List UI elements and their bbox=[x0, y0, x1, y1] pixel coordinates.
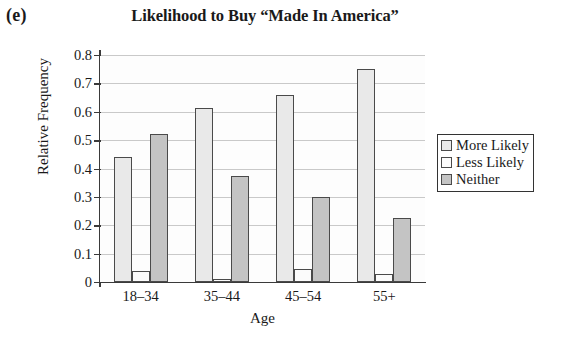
chart-figure: (e) Likelihood to Buy “Made In America” … bbox=[0, 0, 572, 340]
y-axis-tick-label: 0.3 bbox=[52, 190, 92, 205]
bar bbox=[213, 279, 231, 282]
y-axis-tick-label: 0.5 bbox=[52, 133, 92, 148]
y-axis-tick-labels: 0.80.70.60.50.40.30.20.10 bbox=[48, 0, 92, 340]
legend-swatch-icon bbox=[441, 174, 452, 185]
legend-item[interactable]: More Likely bbox=[441, 137, 529, 154]
bar bbox=[312, 197, 330, 282]
bar bbox=[231, 176, 249, 282]
bar bbox=[114, 157, 132, 282]
x-axis-tick-label: 18–34 bbox=[96, 288, 186, 305]
bar bbox=[294, 269, 312, 282]
chart-title: Likelihood to Buy “Made In America” bbox=[80, 6, 450, 26]
legend-label: More Likely bbox=[456, 138, 529, 153]
panel-label: (e) bbox=[6, 5, 27, 26]
bar bbox=[357, 69, 375, 282]
y-axis-tick-label: 0 bbox=[52, 275, 92, 290]
legend-item[interactable]: Neither bbox=[441, 171, 529, 188]
y-axis-tick bbox=[94, 169, 101, 170]
x-axis-tick-label: 55+ bbox=[339, 288, 429, 305]
y-axis-tick bbox=[94, 83, 101, 84]
y-axis-tick bbox=[94, 197, 101, 198]
x-axis-label: Age bbox=[100, 310, 425, 327]
bar bbox=[195, 108, 213, 283]
legend-swatch-icon bbox=[441, 140, 452, 151]
legend-label: Neither bbox=[456, 172, 499, 187]
bar bbox=[375, 274, 393, 283]
y-axis-tick-label: 0.6 bbox=[52, 105, 92, 120]
gridline bbox=[100, 112, 425, 113]
chart-legend[interactable]: More LikelyLess LikelyNeither bbox=[437, 134, 534, 192]
y-axis-tick bbox=[94, 55, 101, 56]
y-axis-tick-label: 0.8 bbox=[52, 48, 92, 63]
legend-swatch-icon bbox=[441, 157, 452, 168]
y-axis-label: Relative Frequency bbox=[35, 27, 52, 207]
y-axis-tick bbox=[94, 282, 101, 283]
y-axis-tick-label: 0.2 bbox=[52, 218, 92, 233]
y-axis-tick bbox=[94, 254, 101, 255]
y-axis-tick-label: 0.1 bbox=[52, 246, 92, 261]
gridline bbox=[100, 55, 425, 56]
bar bbox=[132, 271, 150, 282]
x-axis-tick-label: 45–54 bbox=[258, 288, 348, 305]
y-axis-tick-label: 0.4 bbox=[52, 161, 92, 176]
legend-item[interactable]: Less Likely bbox=[441, 154, 529, 171]
y-axis-tick bbox=[94, 112, 101, 113]
legend-label: Less Likely bbox=[456, 155, 524, 170]
gridline bbox=[100, 83, 425, 84]
y-axis-tick-label: 0.7 bbox=[52, 76, 92, 91]
x-axis-tick-label: 35–44 bbox=[177, 288, 267, 305]
bar bbox=[150, 134, 168, 282]
y-axis-tick bbox=[94, 225, 101, 226]
bar bbox=[393, 218, 411, 282]
bar bbox=[276, 95, 294, 282]
y-axis-tick bbox=[94, 140, 101, 141]
plot-area bbox=[100, 55, 425, 282]
